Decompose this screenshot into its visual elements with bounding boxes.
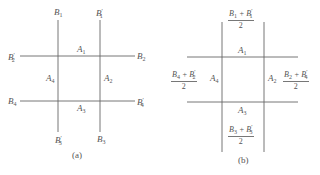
label-b3: B3: [97, 135, 106, 145]
label-b4-prime: B′4: [137, 97, 144, 108]
label-b3-prime: B′3: [55, 135, 62, 146]
region-a2: A2: [104, 74, 113, 84]
fraction-bottom-denominator: 2: [239, 137, 243, 146]
label-b2: B2: [137, 52, 146, 62]
region-a2: A2: [268, 74, 277, 84]
fraction-right-denominator: 2: [294, 82, 298, 91]
fraction-left: B4 + B′2 2: [171, 69, 197, 91]
caption-a: (a): [72, 151, 82, 160]
fraction-left-denominator: 2: [182, 82, 186, 91]
region-a1: A1: [238, 46, 247, 56]
label-b1-prime: B′1: [96, 8, 103, 19]
region-a4: A4: [46, 74, 55, 84]
region-a4: A4: [210, 74, 219, 84]
fraction-right: B2 + B′4 2: [283, 69, 309, 91]
label-b2-prime: B′2: [8, 52, 15, 63]
fraction-top-numerator: B1 + B′1: [228, 8, 254, 21]
caption-b: (b): [238, 156, 249, 165]
region-a1: A1: [77, 45, 86, 55]
fraction-right-numerator: B2 + B′4: [283, 69, 309, 82]
label-b1: B1: [54, 8, 63, 18]
region-a3: A3: [77, 104, 86, 114]
region-a3: A3: [238, 106, 247, 116]
fraction-top: B1 + B′1 2: [228, 8, 254, 30]
diagram-lines: [0, 0, 320, 175]
fraction-bottom-numerator: B3 + B′3: [228, 124, 254, 137]
fraction-top-denominator: 2: [239, 21, 243, 30]
figure-a-lines: [20, 20, 135, 132]
fraction-bottom: B3 + B′3 2: [228, 124, 254, 146]
label-b4: B4: [8, 97, 17, 107]
fraction-left-numerator: B4 + B′2: [171, 69, 197, 82]
